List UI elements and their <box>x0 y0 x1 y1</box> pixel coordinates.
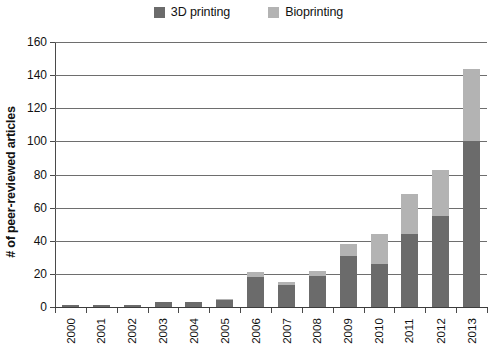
bar-segment-bioprinting-2013 <box>463 69 480 142</box>
chart-area: # of peer-reviewed articles 020406080100… <box>0 22 497 348</box>
bar-segment-3d-printing-2007 <box>278 285 295 307</box>
x-tick-label-text-2003: 2003 <box>157 318 169 344</box>
legend-entry-3d-printing: 3D printing <box>154 6 230 19</box>
x-tick-label-text-2005: 2005 <box>219 318 231 344</box>
x-tick-label-text-2009: 2009 <box>342 318 354 344</box>
x-tick-label-text-2011: 2011 <box>404 319 416 344</box>
bar-group-2011[interactable] <box>401 194 418 307</box>
bar-group-2012[interactable] <box>432 170 449 307</box>
x-tick-label-2013: 2013 <box>454 313 490 348</box>
y-tick-label-120: 120 <box>13 102 47 114</box>
x-tick-label-text-2001: 2001 <box>95 318 107 344</box>
bar-segment-3d-printing-2011 <box>401 234 418 307</box>
bar-segment-bioprinting-2012 <box>432 170 449 216</box>
y-tick-label-60: 60 <box>13 202 47 214</box>
bar-group-2006[interactable] <box>247 272 264 307</box>
plot-region <box>55 42 487 307</box>
x-tick-label-text-2010: 2010 <box>373 318 385 344</box>
y-tick-label-40: 40 <box>13 235 47 247</box>
bar-segment-bioprinting-2011 <box>401 194 418 234</box>
x-tick-label-text-2007: 2007 <box>280 318 292 344</box>
x-tick-label-text-2013: 2013 <box>466 318 478 344</box>
legend-label-bioprinting: Bioprinting <box>285 6 343 19</box>
legend-swatch-bioprinting <box>268 7 279 18</box>
x-tick-label-text-2012: 2012 <box>435 318 447 344</box>
y-tick-label-160: 160 <box>13 36 47 48</box>
bar-segment-3d-printing-2013 <box>463 141 480 307</box>
bar-segment-3d-printing-2006 <box>247 277 264 307</box>
legend-entry-bioprinting: Bioprinting <box>268 6 343 19</box>
bar-segment-3d-printing-2012 <box>432 216 449 307</box>
bar-segment-bioprinting-2009 <box>340 244 357 256</box>
bar-group-2009[interactable] <box>340 244 357 307</box>
legend-swatch-3d-printing <box>154 7 165 18</box>
x-tick-label-text-2004: 2004 <box>188 318 200 344</box>
y-tick-label-20: 20 <box>13 268 47 280</box>
y-axis-tick-labels: 020406080100120140160 <box>14 42 55 307</box>
y-tick-label-80: 80 <box>13 169 47 181</box>
bar-segment-3d-printing-2010 <box>371 264 388 307</box>
bar-segment-3d-printing-2009 <box>340 256 357 307</box>
bar-segment-3d-printing-2005 <box>216 300 233 307</box>
legend-label-3d-printing: 3D printing <box>171 6 230 19</box>
bar-group-2008[interactable] <box>309 271 326 307</box>
x-tick-label-text-2002: 2002 <box>126 318 138 344</box>
bar-group-2005[interactable] <box>216 299 233 307</box>
bar-segment-bioprinting-2010 <box>371 234 388 264</box>
x-tick-label-text-2000: 2000 <box>64 318 76 344</box>
y-tick-label-0: 0 <box>13 301 47 313</box>
bar-group-2010[interactable] <box>371 234 388 307</box>
x-tick-label-text-2006: 2006 <box>250 318 262 344</box>
x-axis-tick-labels: 2000200120022003200420052006200720082009… <box>55 313 487 348</box>
bar-group-2013[interactable] <box>463 69 480 308</box>
x-tick-label-text-2008: 2008 <box>311 318 323 344</box>
chart-legend: 3D printing Bioprinting <box>0 0 497 24</box>
bar-series-container <box>55 42 487 307</box>
bar-segment-3d-printing-2008 <box>309 276 326 307</box>
bar-group-2007[interactable] <box>278 282 295 307</box>
y-tick-label-100: 100 <box>13 135 47 147</box>
y-tick-label-140: 140 <box>13 69 47 81</box>
